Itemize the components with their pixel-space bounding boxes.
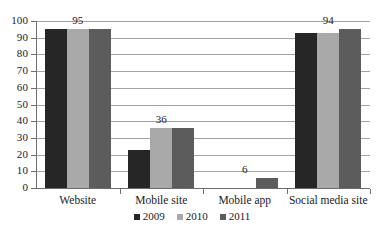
bar[interactable] [128, 150, 150, 188]
legend-swatch-icon [134, 214, 140, 220]
y-tick-label: 20 [0, 149, 28, 160]
bar[interactable] [317, 33, 339, 188]
chart-legend: 200920102011 [0, 211, 384, 222]
legend-label: 2009 [143, 211, 165, 222]
y-tick-label: 90 [0, 32, 28, 43]
bar[interactable] [256, 178, 278, 188]
legend-item[interactable]: 2010 [177, 211, 208, 222]
x-tick-mark [370, 189, 371, 194]
legend-swatch-icon [177, 214, 183, 220]
legend-label: 2011 [229, 211, 251, 222]
y-tick-label: 0 [0, 182, 28, 193]
bar-group-bars [36, 21, 120, 188]
x-category-label: Social media site [287, 194, 371, 207]
bar-chart-figure: 0102030405060708090100 9536694 WebsiteMo… [0, 0, 384, 233]
bar-group: 36 [120, 21, 204, 188]
bar[interactable] [67, 29, 89, 188]
bar-group-bars [287, 21, 371, 188]
bar-group: 6 [203, 21, 287, 188]
bar-value-label: 36 [120, 114, 204, 125]
legend-label: 2010 [186, 211, 208, 222]
plot-area: 9536694 [36, 21, 370, 188]
legend-item[interactable]: 2011 [220, 211, 251, 222]
y-tick-label: 30 [0, 132, 28, 143]
bar[interactable] [339, 29, 361, 188]
y-tick-label: 80 [0, 48, 28, 59]
bar[interactable] [45, 29, 67, 188]
bar-value-label: 94 [287, 15, 371, 26]
y-tick-label: 100 [0, 15, 28, 26]
bar-group-bars [120, 21, 204, 188]
bar[interactable] [295, 33, 317, 188]
x-category-label: Mobile site [120, 194, 204, 207]
bar-group: 95 [36, 21, 120, 188]
x-category-label: Mobile app [203, 194, 287, 207]
y-tick-label: 70 [0, 65, 28, 76]
y-tick-label: 60 [0, 82, 28, 93]
bar[interactable] [172, 128, 194, 188]
bar-value-label: 95 [36, 15, 120, 26]
y-tick-label: 40 [0, 115, 28, 126]
x-category-label: Website [36, 194, 120, 207]
legend-swatch-icon [220, 214, 226, 220]
legend-item[interactable]: 2009 [134, 211, 165, 222]
bar[interactable] [89, 29, 111, 188]
bar-value-label: 6 [203, 164, 287, 175]
bar-group: 94 [287, 21, 371, 188]
y-tick-label: 10 [0, 165, 28, 176]
bar[interactable] [150, 128, 172, 188]
y-tick-label: 50 [0, 99, 28, 110]
